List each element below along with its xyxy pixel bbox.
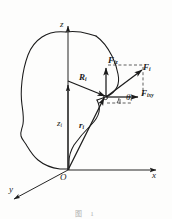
angle-label: θi [126,93,132,102]
figure-caption: 图 1 [0,208,172,218]
vector-F-i [106,70,142,97]
y-axis-label: y [9,185,13,194]
vector-F-ixy-label: Fixy [141,89,154,98]
vector-F-i-label: Fi [143,63,151,72]
origin-label: O [60,173,67,182]
x-axis-label: x [152,171,156,180]
angle-arc [117,98,119,103]
vector-r-i-label: ri [79,121,84,130]
vector-F-iz-label: Fiz [108,56,118,65]
vector-r-i [69,98,104,168]
vector-R-i-label: Ri [79,73,87,82]
z-axis-label: z [60,20,64,29]
mechanics-diagram [0,0,172,219]
vector-R-i [68,81,105,96]
figure-container: z x y O Ri ri Fi Fiz Fixy zi θi 图 1 [0,0,172,219]
z-coordinate-label: zi [57,119,62,128]
rigid-body-outline [21,32,119,169]
